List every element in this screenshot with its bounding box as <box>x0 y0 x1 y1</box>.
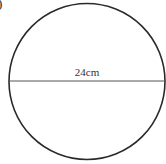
circle-diagram: ) 24cm <box>0 0 166 164</box>
diameter-label: 24cm <box>67 66 107 78</box>
circle-figure <box>0 0 166 164</box>
part-label: ) <box>0 0 2 12</box>
